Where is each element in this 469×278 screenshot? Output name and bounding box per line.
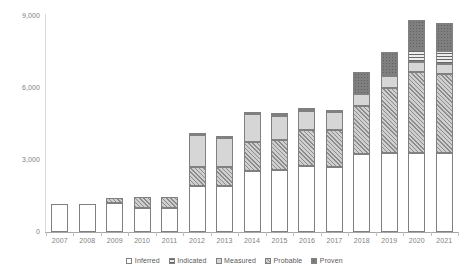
plot-area xyxy=(46,16,458,232)
bar-segment-measured xyxy=(353,94,370,106)
x-axis-tick-label-2012: 2012 xyxy=(183,236,210,245)
bar-segment-indicated xyxy=(436,51,453,63)
chart-legend: InferredIndicatedMeasuredProbableProven xyxy=(0,257,469,265)
legend-label: Proven xyxy=(320,257,343,265)
x-axis-tick-mark xyxy=(458,232,459,236)
y-axis-tick-label: 0 xyxy=(0,228,40,236)
bar-segment-probable xyxy=(216,167,233,187)
bar-segment-probable xyxy=(408,72,425,152)
legend-item-probable[interactable]: Probable xyxy=(265,257,302,265)
bar-segment-indicated xyxy=(408,50,425,62)
bar-2015 xyxy=(271,16,288,232)
x-axis-tick-label-2020: 2020 xyxy=(403,236,430,245)
bar-segment-probable xyxy=(189,167,206,186)
x-axis-tick-label-2010: 2010 xyxy=(128,236,155,245)
legend-label: Indicated xyxy=(177,257,206,265)
bar-segment-probable xyxy=(134,197,151,208)
legend-label: Inferred xyxy=(135,257,160,265)
legend-item-proven[interactable]: Proven xyxy=(311,257,342,265)
x-axis-tick-label-2016: 2016 xyxy=(293,236,320,245)
x-axis-tick-label-2009: 2009 xyxy=(101,236,128,245)
bar-segment-probable xyxy=(298,130,315,166)
bar-segment-probable xyxy=(271,140,288,170)
x-axis-tick-label-2021: 2021 xyxy=(431,236,458,245)
x-axis-tick-label-2019: 2019 xyxy=(376,236,403,245)
legend-swatch-measured-icon xyxy=(216,258,222,264)
bar-segment-proven xyxy=(189,133,206,135)
bar-segment-probable xyxy=(381,88,398,153)
bar-2019 xyxy=(381,16,398,232)
bar-segment-inferred xyxy=(326,167,343,232)
legend-swatch-probable-icon xyxy=(265,258,271,264)
bar-segment-measured xyxy=(216,138,233,167)
bar-segment-inferred xyxy=(381,153,398,232)
x-axis-line xyxy=(45,232,459,233)
legend-item-measured[interactable]: Measured xyxy=(216,257,256,265)
y-axis-tick-label: 9,000 xyxy=(0,12,40,20)
bar-2013 xyxy=(216,16,233,232)
bar-segment-inferred xyxy=(436,153,453,232)
bar-segment-inferred xyxy=(106,203,123,232)
bar-segment-probable xyxy=(106,198,123,202)
bar-segment-proven xyxy=(381,52,398,76)
y-axis-tick-label: 6,000 xyxy=(0,84,40,92)
bar-2014 xyxy=(244,16,261,232)
bar-segment-inferred xyxy=(51,204,68,232)
bar-segment-proven xyxy=(298,108,315,110)
bar-segment-inferred xyxy=(161,208,178,232)
x-axis-tick-label-2014: 2014 xyxy=(238,236,265,245)
bar-segment-inferred xyxy=(216,186,233,232)
bar-2011 xyxy=(161,16,178,232)
bar-segment-proven xyxy=(216,136,233,138)
bar-segment-measured xyxy=(408,62,425,72)
bar-segment-probable xyxy=(353,106,370,154)
bar-segment-measured xyxy=(381,76,398,88)
bar-2016 xyxy=(298,16,315,232)
bar-segment-proven xyxy=(436,23,453,51)
x-axis-tick-label-2018: 2018 xyxy=(348,236,375,245)
bar-segment-inferred xyxy=(189,186,206,232)
bar-segment-proven xyxy=(244,112,261,114)
bar-segment-measured xyxy=(189,135,206,167)
legend-label: Probable xyxy=(274,257,303,265)
bar-2021 xyxy=(436,16,453,232)
bar-segment-inferred xyxy=(134,208,151,232)
bar-segment-inferred xyxy=(271,170,288,232)
bar-2010 xyxy=(134,16,151,232)
bar-segment-probable xyxy=(326,130,343,167)
bar-2008 xyxy=(79,16,96,232)
bar-segment-inferred xyxy=(298,166,315,232)
bar-2018 xyxy=(353,16,370,232)
bar-segment-proven xyxy=(271,113,288,115)
bar-2012 xyxy=(189,16,206,232)
bar-segment-proven xyxy=(408,20,425,50)
y-axis-tick-label: 3,000 xyxy=(0,156,40,164)
bar-segment-inferred xyxy=(244,171,261,232)
stacked-bar-chart: 03,0006,0009,000 20072008200920102011201… xyxy=(0,0,469,278)
x-axis-tick-label-2013: 2013 xyxy=(211,236,238,245)
legend-swatch-indicated-icon xyxy=(169,258,175,264)
legend-swatch-inferred-icon xyxy=(126,258,132,264)
bar-segment-inferred xyxy=(353,154,370,232)
x-axis-tick-label-2008: 2008 xyxy=(73,236,100,245)
x-axis-tick-label-2015: 2015 xyxy=(266,236,293,245)
bar-segment-probable xyxy=(436,74,453,153)
x-axis-tick-label-2017: 2017 xyxy=(321,236,348,245)
legend-item-indicated[interactable]: Indicated xyxy=(169,257,207,265)
bar-segment-inferred xyxy=(79,204,96,232)
bar-segment-proven xyxy=(326,110,343,112)
bar-segment-proven xyxy=(353,72,370,94)
bar-segment-probable xyxy=(161,197,178,208)
bar-segment-measured xyxy=(271,116,288,140)
bar-2009 xyxy=(106,16,123,232)
bar-segment-measured xyxy=(326,112,343,130)
bar-segment-probable xyxy=(244,142,261,171)
bar-segment-measured xyxy=(298,111,315,130)
bar-2007 xyxy=(51,16,68,232)
x-axis-tick-label-2011: 2011 xyxy=(156,236,183,245)
legend-item-inferred[interactable]: Inferred xyxy=(126,257,159,265)
bar-segment-inferred xyxy=(408,153,425,232)
bar-2017 xyxy=(326,16,343,232)
legend-swatch-proven-icon xyxy=(311,258,317,264)
x-axis-tick-label-2007: 2007 xyxy=(46,236,73,245)
